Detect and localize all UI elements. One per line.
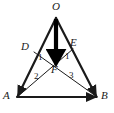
- segment-ob: [56, 18, 96, 96]
- angle-label-1-left: 1: [38, 53, 43, 62]
- point-label-a: A: [3, 90, 10, 101]
- angle-label-2: 2: [34, 72, 39, 81]
- segment-oa: [18, 18, 56, 96]
- point-label-o: O: [52, 1, 60, 12]
- point-label-e: E: [70, 37, 77, 48]
- point-label-b: B: [101, 90, 108, 101]
- angle-label-1-right: 1: [65, 52, 70, 61]
- geometry-canvas: [0, 0, 114, 113]
- geometry-figure: O A B D E F 1 1 2 3: [0, 0, 114, 113]
- angle-label-3: 3: [69, 71, 74, 80]
- point-label-d: D: [21, 41, 29, 52]
- point-label-f: F: [51, 64, 58, 75]
